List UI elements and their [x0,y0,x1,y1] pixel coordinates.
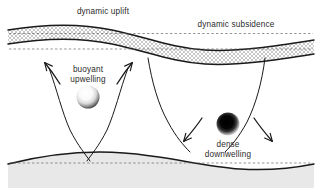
convection-diagram: dynamic uplift dynamic subsidence buoyan… [0,0,322,193]
arrow-upwelling-right [117,63,132,84]
label-dynamic-uplift: dynamic uplift [77,7,130,16]
arrow-upwelling-left [45,63,60,84]
streamline-cell-divider-right [225,58,265,152]
figure-root: dynamic uplift dynamic subsidence buoyan… [0,0,322,193]
arrow-downwelling-right [254,118,272,141]
arrow-downwelling-left [184,118,202,141]
label-upwelling: upwelling [70,75,106,84]
label-buoyant: buoyant [73,65,104,74]
label-downwelling: downwelling [205,150,252,159]
bottom-boundary-layer [8,152,314,188]
streamline-cell-divider-left [148,58,190,152]
label-dense: dense [216,140,239,149]
dense-sphere [217,113,240,136]
label-dynamic-subsidence: dynamic subsidence [198,20,275,29]
lithosphere-fill [8,25,314,64]
buoyant-sphere [77,86,100,109]
lithosphere-band [8,25,314,64]
